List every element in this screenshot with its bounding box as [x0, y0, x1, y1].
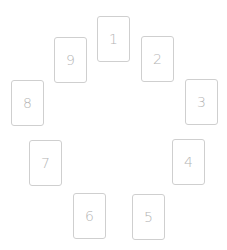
card-number: 3	[197, 95, 206, 109]
card-position-1[interactable]: 1	[97, 16, 130, 62]
card-spread: 1 2 3 4 5 6 7 8 9	[0, 0, 227, 250]
card-position-4[interactable]: 4	[172, 139, 205, 185]
card-position-5[interactable]: 5	[132, 194, 165, 240]
card-position-9[interactable]: 9	[54, 37, 87, 83]
card-number: 6	[85, 209, 94, 223]
card-number: 5	[144, 210, 153, 224]
card-position-3[interactable]: 3	[185, 79, 218, 125]
card-position-7[interactable]: 7	[29, 140, 62, 186]
card-number: 7	[41, 156, 50, 170]
card-number: 4	[184, 155, 193, 169]
card-number: 1	[109, 32, 118, 46]
card-number: 8	[23, 96, 32, 110]
card-position-8[interactable]: 8	[11, 80, 44, 126]
card-position-2[interactable]: 2	[141, 36, 174, 82]
card-number: 2	[153, 52, 162, 66]
card-position-6[interactable]: 6	[73, 193, 106, 239]
card-number: 9	[66, 53, 75, 67]
